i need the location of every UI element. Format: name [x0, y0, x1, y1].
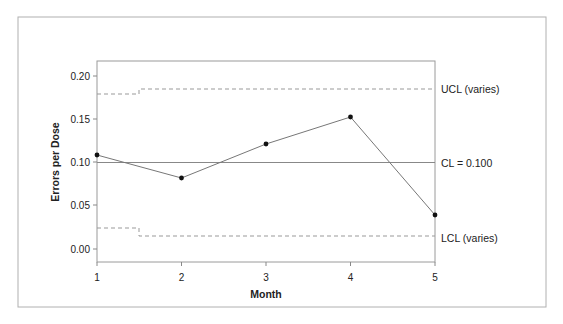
data-markers	[95, 115, 438, 218]
x-tick-label: 5	[432, 272, 438, 283]
y-axis	[93, 76, 97, 249]
ucl-line	[97, 89, 435, 94]
cl-label: CL = 0.100	[441, 157, 492, 169]
y-tick-label: 0.15	[71, 114, 91, 125]
y-tick-label: 0.05	[71, 200, 91, 211]
y-tick-label: 0.00	[71, 244, 91, 255]
control-chart: 0.20 0.15 0.10 0.05 0.00 1 2 3 4 5 Month…	[0, 0, 563, 324]
y-tick-labels: 0.20 0.15 0.10 0.05 0.00	[71, 71, 91, 255]
y-tick-label: 0.10	[71, 157, 91, 168]
x-axis	[97, 262, 435, 266]
x-tick-labels: 1 2 3 4 5	[94, 272, 438, 283]
data-point	[348, 115, 353, 120]
data-point	[95, 153, 100, 158]
data-point	[264, 142, 269, 147]
x-tick-label: 2	[179, 272, 185, 283]
lcl-label: LCL (varies)	[441, 232, 498, 244]
y-tick-label: 0.20	[71, 71, 91, 82]
x-tick-label: 3	[263, 272, 269, 283]
x-tick-label: 1	[94, 272, 100, 283]
plot-area	[97, 61, 435, 262]
x-axis-title: Month	[250, 288, 282, 300]
data-series-line	[97, 117, 435, 215]
data-point	[433, 213, 438, 218]
data-point	[179, 176, 184, 181]
ucl-label: UCL (varies)	[441, 83, 500, 95]
x-tick-label: 4	[348, 272, 354, 283]
y-axis-title: Errors per Dose	[49, 122, 61, 202]
lcl-line	[97, 228, 435, 236]
